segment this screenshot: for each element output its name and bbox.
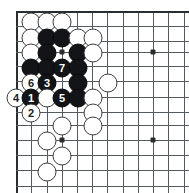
stone-white xyxy=(38,132,57,151)
move-number-label: 6 xyxy=(28,77,34,88)
hoshi-lower-right xyxy=(151,138,156,143)
grid-line-vertical xyxy=(168,11,169,193)
move-number-label: 1 xyxy=(28,92,34,103)
move-number-label: 4 xyxy=(13,92,19,103)
grid-line-vertical xyxy=(184,11,185,193)
move-number-label: 3 xyxy=(44,77,50,88)
grid-line-horizontal xyxy=(16,112,189,113)
grid-line-vertical xyxy=(107,11,108,193)
move-number-label: 5 xyxy=(59,92,65,103)
stone-white xyxy=(84,117,103,136)
hoshi-upper-left xyxy=(60,50,65,55)
stone-white xyxy=(53,147,72,166)
grid-line-horizontal xyxy=(16,186,189,187)
grid-line-vertical xyxy=(138,11,139,193)
hoshi-upper-right xyxy=(151,50,156,55)
grid-line-vertical xyxy=(153,11,154,193)
stone-white xyxy=(99,74,118,93)
grid-line-horizontal xyxy=(16,125,189,126)
stone-white-move-2: 2 xyxy=(22,104,41,123)
stone-white xyxy=(53,117,72,136)
grid-line-vertical xyxy=(123,11,124,193)
move-number-label: 7 xyxy=(59,62,65,73)
move-number-label: 2 xyxy=(28,107,34,118)
hoshi-lower-left xyxy=(60,138,65,143)
grid-line-horizontal xyxy=(16,155,189,156)
stone-white xyxy=(38,163,57,182)
go-board-diagram: 7634152 xyxy=(0,0,189,193)
stone-white xyxy=(84,44,103,63)
